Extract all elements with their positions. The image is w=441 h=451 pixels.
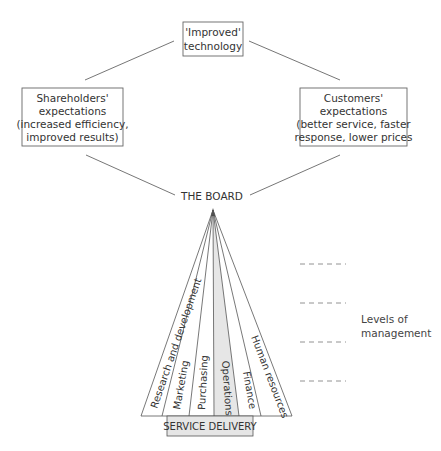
customers-box-line-2: expectations: [320, 105, 388, 117]
customers-box-line-1: Customers': [324, 92, 383, 104]
management-fan: Research and development Marketing Purch…: [141, 208, 292, 420]
technology-box-line-1: 'Improved': [185, 26, 241, 38]
shareholders-box-line-2: expectations: [39, 105, 107, 117]
levels-label-line-2: management: [361, 327, 431, 339]
technology-box: 'Improved' technology: [183, 22, 243, 56]
connector-technology-customers: [249, 41, 340, 80]
service-delivery-label: SERVICE DELIVERY: [163, 421, 257, 432]
shareholders-box-line-1: Shareholders': [36, 92, 108, 104]
shareholders-box-line-4: improved results): [26, 131, 118, 143]
diagram-canvas: 'Improved' technology Shareholders' expe…: [0, 0, 441, 451]
levels-label-line-1: Levels of: [361, 313, 408, 325]
customers-box-line-3: (better service, faster: [296, 118, 411, 130]
management-level-lines: [300, 264, 346, 381]
shareholders-box: Shareholders' expectations (increased ef…: [16, 88, 128, 146]
connector-shareholders-technology: [85, 41, 174, 80]
customers-box: Customers' expectations (better service,…: [294, 88, 412, 146]
connector-customers-board: [250, 155, 340, 195]
dept-purchasing: Purchasing: [196, 355, 210, 410]
connector-shareholders-board: [86, 155, 175, 195]
dept-finance: Finance: [241, 370, 258, 410]
technology-box-line-2: technology: [184, 40, 242, 52]
service-delivery-box: SERVICE DELIVERY: [163, 416, 257, 436]
board-label: THE BOARD: [180, 190, 243, 202]
customers-box-line-4: response, lower prices: [294, 131, 412, 143]
shareholders-box-line-3: (increased efficiency,: [16, 118, 128, 130]
